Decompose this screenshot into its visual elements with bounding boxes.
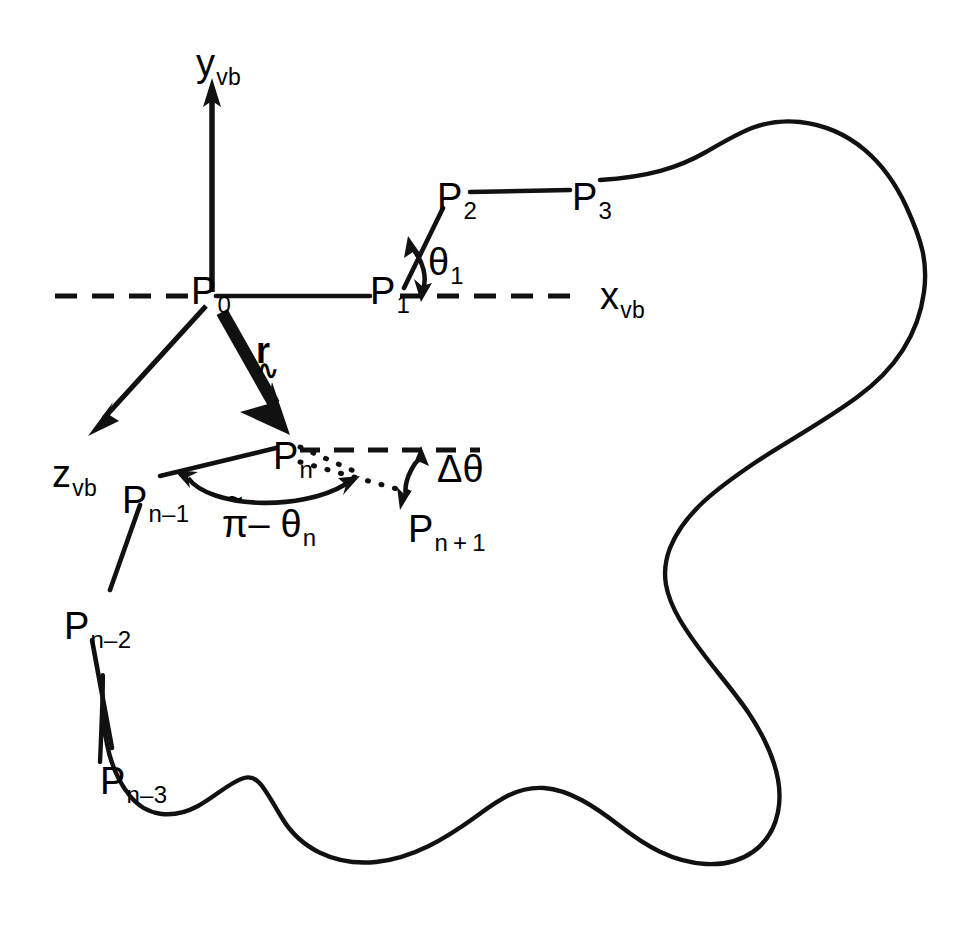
vertex-label-p0: P0 — [191, 272, 230, 310]
theta1-arrowhead-upper — [404, 236, 422, 258]
r-vector-label: r ∿ — [256, 333, 279, 383]
vertex-p2-sub: 2 — [464, 197, 478, 224]
vertex-label-pn-minus-3: Pn–3 — [100, 762, 166, 800]
r-vector-underline-tilde: ∿ — [257, 357, 279, 383]
vertex-pn-base: P — [273, 435, 299, 477]
vertex-p3-base: P — [572, 176, 598, 218]
y-axis-label-base: y — [196, 42, 215, 84]
x-axis-label: xvb — [600, 277, 644, 315]
vertex-pn-minus-1-sub: n–1 — [149, 500, 190, 527]
pi-symbol-group: ~π — [222, 505, 248, 543]
theta-1-sub: 1 — [450, 262, 464, 289]
vertex-pn-minus-2-sub: n–2 — [91, 626, 132, 653]
segment-p2-p3 — [470, 190, 570, 192]
vertex-label-p2: P2 — [437, 178, 476, 216]
angle-label-theta-1: θ1 — [428, 243, 463, 281]
z-axis-label-sub: vb — [72, 475, 97, 501]
vertex-label-p1: P1 — [370, 272, 409, 310]
vertex-pn-minus-3-sub: n–3 — [127, 781, 168, 808]
vertex-p1-sub: 1 — [397, 291, 411, 318]
y-axis-label-sub: vb — [216, 64, 241, 90]
vertex-label-p3: P3 — [572, 178, 611, 216]
figure-root: yvb xvb zvb P0 P1 P2 P3 Pn Pn–1 Pn–2 Pn–… — [0, 0, 972, 949]
x-axis-label-base: x — [600, 275, 619, 317]
vertex-p0-sub: 0 — [218, 291, 232, 318]
pi-minus-thetan-arc — [188, 478, 346, 503]
vertex-p0-base: P — [191, 270, 217, 312]
delta-theta-symbol: Δθ — [437, 448, 484, 490]
vertex-pn-plus-1-base: P — [408, 508, 434, 550]
pi-tilde-accent: ~ — [227, 486, 243, 513]
angle-label-pi-minus-theta-n: ~π– θn — [222, 505, 315, 543]
pi-minus-theta-rest: – θ — [248, 503, 301, 545]
z-axis-arrow-shaft — [104, 306, 206, 418]
y-axis-label: yvb — [196, 44, 240, 82]
vertex-p3-sub: 3 — [599, 197, 613, 224]
vertex-label-pn-plus-1: Pn + 1 — [408, 510, 485, 548]
vertex-pn-minus-2-base: P — [64, 605, 90, 647]
theta-n-sub: n — [303, 524, 317, 551]
z-axis-label: zvb — [52, 455, 96, 493]
vertex-p2-base: P — [437, 176, 463, 218]
angle-label-delta-theta: Δθ — [437, 450, 484, 488]
vertex-pn-plus-1-sub: n + 1 — [435, 529, 486, 556]
vertex-pn-sub: n — [300, 456, 314, 483]
vertex-p1-base: P — [370, 270, 396, 312]
vertex-pn-minus-3-base: P — [100, 760, 126, 802]
theta-1-symbol: θ — [428, 241, 449, 283]
vertex-label-pn: Pn — [273, 437, 312, 475]
z-axis-label-base: z — [52, 453, 71, 495]
vertex-pn-minus-1-base: P — [122, 479, 148, 521]
vertex-label-pn-minus-2: Pn–2 — [64, 607, 130, 645]
x-axis-label-sub: vb — [620, 297, 645, 323]
vertex-label-pn-minus-1: Pn–1 — [122, 481, 188, 519]
body-outline-path — [100, 121, 925, 864]
